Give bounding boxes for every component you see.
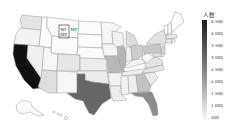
legend-title: 人数 — [203, 11, 215, 19]
legend-tick: 2 500 — [211, 67, 223, 72]
state-wa — [20, 15, 42, 30]
colorbar — [202, 20, 207, 120]
state-ms — [121, 76, 129, 95]
state-wi — [112, 31, 124, 47]
label-wi: WI — [61, 27, 67, 32]
state-mi — [126, 31, 138, 47]
state-ma — [166, 34, 177, 39]
label-mt-1: MT — [71, 27, 78, 32]
state-ct — [166, 39, 172, 43]
legend-tick: 2 000 — [211, 79, 223, 84]
state-ak — [16, 100, 44, 116]
legend-tick: 4 000 — [211, 31, 223, 36]
state-vt — [164, 25, 168, 35]
state-nd — [78, 21, 102, 35]
state-sd — [78, 34, 102, 48]
state-nm — [57, 71, 77, 93]
state-oh — [131, 45, 143, 60]
state-ks — [80, 58, 107, 71]
legend-tick: 4 500 — [211, 19, 223, 24]
state-ri — [172, 39, 175, 43]
state-me — [171, 12, 184, 33]
state-hi — [53, 111, 68, 120]
legend-tick: 1 000 — [211, 103, 223, 108]
state-ne — [77, 47, 106, 59]
label-mt-2: MT — [61, 32, 68, 37]
legend-tick: 3 500 — [211, 43, 223, 48]
state-ar — [108, 73, 122, 86]
state-pa — [143, 44, 162, 54]
legend-tick: 500 — [211, 115, 219, 120]
state-or — [14, 28, 41, 46]
state-co — [57, 54, 80, 71]
state-fl — [131, 92, 158, 116]
state-wy — [51, 36, 78, 55]
legend-tick: 3 000 — [211, 55, 223, 60]
legend-tick: 1 500 — [211, 91, 223, 96]
state-ny — [146, 30, 167, 45]
